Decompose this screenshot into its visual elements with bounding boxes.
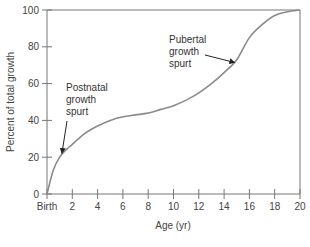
x-tick-label: 6 xyxy=(120,201,126,212)
growth-chart: 020406080100 Birth2468101214161820 Perce… xyxy=(0,0,310,247)
x-axis: Birth2468101214161820 xyxy=(37,189,306,212)
y-tick-label: 80 xyxy=(28,41,40,52)
y-tick-label: 20 xyxy=(28,152,40,163)
x-axis-title: Age (yr) xyxy=(155,220,191,231)
y-tick-label: 0 xyxy=(33,189,39,200)
x-tick-label: 18 xyxy=(269,201,281,212)
x-tick-label: 10 xyxy=(168,201,180,212)
x-tick-label: 12 xyxy=(193,201,205,212)
x-tick-label: 14 xyxy=(219,201,231,212)
x-tick-label: 16 xyxy=(244,201,256,212)
x-tick-label: 4 xyxy=(95,201,101,212)
annotations: PostnatalgrowthspurtPubertalgrowthspurt xyxy=(62,34,235,153)
x-tick-label: 8 xyxy=(145,201,151,212)
x-tick-label: Birth xyxy=(37,201,58,212)
x-tick-label: 2 xyxy=(70,201,76,212)
pubertal-annotation: Pubertalgrowthspurt xyxy=(169,34,206,69)
y-axis: 020406080100 xyxy=(22,5,52,200)
y-tick-label: 40 xyxy=(28,115,40,126)
pubertal-arrow xyxy=(205,55,235,63)
y-axis-title: Percent of total growth xyxy=(5,52,16,152)
x-tick-label: 20 xyxy=(294,201,306,212)
y-tick-label: 60 xyxy=(28,78,40,89)
postnatal-annotation: Postnatalgrowthspurt xyxy=(66,82,108,117)
y-tick-label: 100 xyxy=(22,5,39,16)
